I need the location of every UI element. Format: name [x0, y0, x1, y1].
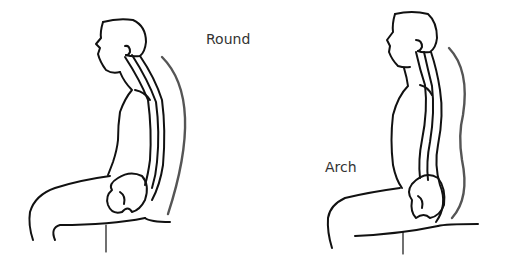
arch-posture-figure	[328, 12, 478, 254]
illustration	[0, 0, 505, 261]
round-back-curve	[162, 57, 185, 214]
arch-label: Arch	[325, 159, 357, 175]
posture-diagram: Round Arch	[0, 0, 505, 261]
arch-back-curve	[449, 48, 465, 218]
round-posture-figure	[29, 19, 170, 252]
round-label: Round	[206, 31, 250, 47]
